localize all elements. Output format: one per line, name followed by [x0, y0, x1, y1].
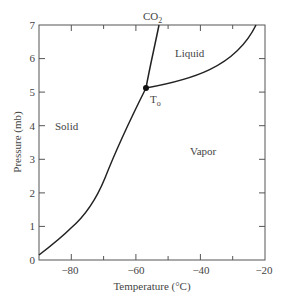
x-tick-labels: −80 −60 −40 −20 — [61, 264, 273, 276]
melting-curve — [146, 25, 159, 88]
svg-text:1: 1 — [30, 220, 36, 232]
region-liquid: Liquid — [175, 47, 205, 59]
svg-text:2: 2 — [30, 187, 36, 199]
x-axis-title: Temperature (°C) — [113, 280, 191, 293]
triple-point-marker — [143, 85, 149, 91]
region-solid: Solid — [55, 120, 79, 132]
region-vapor: Vapor — [190, 145, 217, 157]
svg-text:−40: −40 — [192, 264, 210, 276]
svg-text:3: 3 — [30, 153, 36, 165]
svg-text:4: 4 — [30, 120, 36, 132]
svg-text:5: 5 — [30, 86, 36, 98]
triple-point-label: To — [150, 93, 161, 108]
svg-text:7: 7 — [30, 19, 36, 31]
y-tick-labels: 0 1 2 3 4 5 6 7 — [30, 19, 36, 266]
svg-text:−80: −80 — [61, 264, 79, 276]
sublimation-curve — [39, 88, 146, 255]
svg-text:−20: −20 — [255, 264, 273, 276]
phase-diagram: 0 1 2 3 4 5 6 7 −80 −60 −40 −20 Temperat… — [0, 0, 283, 303]
y-ticks — [39, 59, 265, 227]
y-axis-title: Pressure (mb) — [11, 111, 24, 173]
svg-text:−60: −60 — [127, 264, 145, 276]
svg-text:0: 0 — [30, 254, 36, 266]
svg-text:6: 6 — [30, 52, 36, 64]
chart-title: CO2 — [143, 10, 162, 25]
